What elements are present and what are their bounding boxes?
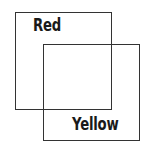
yellow-label: Yellow (72, 115, 118, 133)
red-label: Red (33, 16, 61, 34)
